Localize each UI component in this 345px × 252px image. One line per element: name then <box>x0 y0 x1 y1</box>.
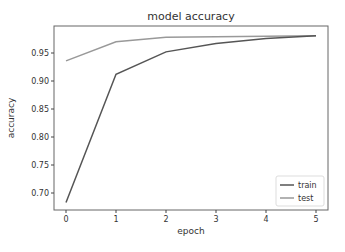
y-axis-ticks: 0.700.750.800.850.900.95 <box>31 49 54 198</box>
y-tick-label: 0.95 <box>31 49 49 58</box>
x-tick-label: 1 <box>113 215 118 224</box>
y-axis-label: accuracy <box>6 97 16 138</box>
x-axis-label: epoch <box>177 226 204 236</box>
y-tick-label: 0.70 <box>31 189 49 198</box>
chart-title: model accuracy <box>147 10 235 23</box>
y-tick-label: 0.90 <box>31 77 49 86</box>
x-tick-label: 3 <box>213 215 218 224</box>
x-tick-label: 2 <box>163 215 168 224</box>
x-tick-label: 0 <box>63 215 68 224</box>
y-tick-label: 0.80 <box>31 133 49 142</box>
x-tick-label: 4 <box>263 215 268 224</box>
legend: train test <box>276 176 324 206</box>
x-axis-ticks: 012345 <box>63 210 318 224</box>
line-chart: model accuracy 0.700.750.800.850.900.95 … <box>0 0 345 252</box>
y-tick-label: 0.75 <box>31 161 49 170</box>
legend-label-test: test <box>298 194 313 203</box>
x-tick-label: 5 <box>313 215 318 224</box>
y-tick-label: 0.85 <box>31 105 49 114</box>
legend-label-train: train <box>298 181 317 190</box>
